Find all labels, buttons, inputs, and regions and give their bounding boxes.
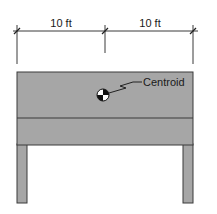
- dimension-label-right: 10 ft: [139, 17, 160, 29]
- frame-diagram: 10 ft 10 ft Centroid: [0, 0, 217, 214]
- left-post: [17, 144, 27, 203]
- right-post: [183, 144, 193, 203]
- dimension-lines: [13, 25, 198, 64]
- centroid-icon: [97, 89, 109, 101]
- dimension-label-left: 10 ft: [50, 17, 71, 29]
- centroid-label: Centroid: [143, 76, 185, 88]
